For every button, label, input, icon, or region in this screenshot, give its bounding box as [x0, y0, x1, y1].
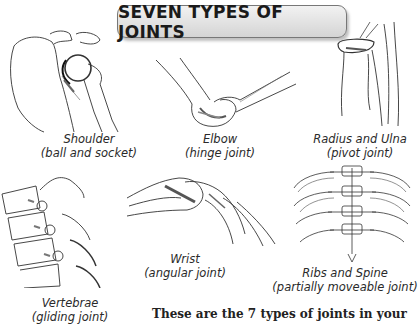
wrist-illustration — [125, 172, 280, 250]
ribs-spine-illustration — [290, 162, 415, 262]
wrist-caption: Wrist (angular joint) — [135, 252, 235, 280]
elbow-caption: Elbow (hinge joint) — [175, 132, 265, 160]
joint-type: (partially moveable joint) — [270, 280, 420, 294]
joint-name: Ribs and Spine — [270, 266, 420, 280]
joint-type: (ball and socket) — [34, 146, 144, 160]
joint-type: (angular joint) — [135, 266, 235, 280]
body-paragraph: These are the 7 types of joints in your — [152, 307, 407, 321]
shoulder-illustration — [0, 28, 140, 133]
vertebrae-caption: Vertebrae (gliding joint) — [20, 296, 120, 324]
joint-name: Shoulder — [34, 132, 144, 146]
radius-ulna-caption: Radius and Ulna (pivot joint) — [305, 132, 415, 160]
ribs-spine-caption: Ribs and Spine (partially moveable joint… — [270, 266, 420, 294]
page-title: SEVEN TYPES OF JOINTS — [118, 2, 346, 42]
elbow-illustration — [150, 50, 300, 132]
radius-ulna-illustration — [330, 20, 415, 130]
joint-type: (hinge joint) — [175, 146, 265, 160]
joint-type: (pivot joint) — [305, 146, 415, 160]
vertebrae-illustration — [0, 170, 115, 288]
joint-name: Vertebrae — [20, 296, 120, 310]
title-banner: SEVEN TYPES OF JOINTS — [117, 5, 347, 38]
joint-name: Radius and Ulna — [305, 132, 415, 146]
shoulder-caption: Shoulder (ball and socket) — [34, 132, 144, 160]
joint-type: (gliding joint) — [20, 310, 120, 324]
joint-name: Wrist — [135, 252, 235, 266]
joint-name: Elbow — [175, 132, 265, 146]
